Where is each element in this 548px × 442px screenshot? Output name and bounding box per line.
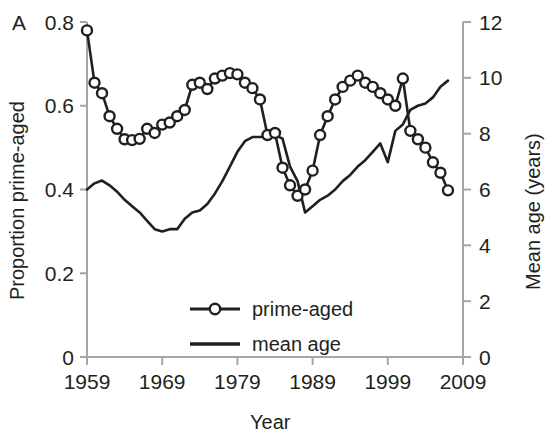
prime-aged-data-point (278, 163, 288, 173)
y-tick-label-right: 2 (479, 290, 491, 313)
y-tick-label-right: 4 (479, 234, 491, 257)
prime-aged-data-point (202, 84, 212, 94)
chart-figure: A 00.20.40.60.8 024681012 19591969197919… (0, 0, 548, 442)
prime-aged-data-point (232, 69, 242, 79)
y-tick-label-left: 0.2 (45, 262, 74, 285)
prime-aged-data-point (90, 78, 100, 88)
y-tick-label-left: 0 (62, 346, 74, 369)
x-tick-label: 1979 (214, 370, 261, 393)
y-tick-label-right: 6 (479, 178, 491, 201)
prime-aged-data-point (330, 94, 340, 104)
prime-aged-data-point (255, 94, 265, 104)
prime-aged-data-point (428, 157, 438, 167)
prime-aged-data-point (443, 185, 453, 195)
legend-swatch-prime-aged-marker (210, 304, 220, 314)
y-axis-right-title: Mean age (years) (522, 133, 544, 290)
prime-aged-data-point (97, 88, 107, 98)
y-axis-left-title: Proportion prime-aged (6, 101, 28, 300)
x-tick-label: 1999 (364, 370, 411, 393)
prime-aged-data-point (435, 168, 445, 178)
x-tick-label: 2009 (440, 370, 487, 393)
x-tick-label: 1959 (64, 370, 111, 393)
y-tick-label-right: 8 (479, 122, 491, 145)
prime-aged-data-point (398, 74, 408, 84)
prime-aged-data-point (150, 128, 160, 138)
prime-aged-data-point (82, 25, 92, 35)
prime-aged-data-point (308, 166, 318, 176)
legend-label-prime-aged: prime-aged (252, 298, 353, 320)
y-tick-label-left: 0.4 (45, 178, 75, 201)
prime-aged-data-point (413, 134, 423, 144)
prime-aged-data-point (405, 126, 415, 136)
y-tick-label-left: 0.6 (45, 94, 74, 117)
prime-aged-data-point (420, 143, 430, 153)
prime-aged-data-point (105, 111, 115, 121)
y-tick-label-right: 0 (479, 346, 491, 369)
y-tick-label-left: 0.8 (45, 11, 74, 34)
prime-aged-data-point (323, 111, 333, 121)
prime-aged-data-point (270, 128, 280, 138)
y-tick-label-right: 12 (479, 11, 502, 34)
legend-label-mean-age: mean age (252, 333, 341, 355)
prime-aged-data-point (315, 130, 325, 140)
prime-aged-data-point (247, 83, 257, 93)
prime-aged-data-point (300, 185, 310, 195)
prime-aged-data-point (180, 105, 190, 115)
x-tick-label: 1969 (139, 370, 186, 393)
x-axis-title: Year (250, 411, 291, 433)
y-tick-label-right: 10 (479, 66, 502, 89)
panel-label: A (12, 11, 26, 34)
prime-aged-data-point (390, 101, 400, 111)
x-tick-label: 1989 (289, 370, 336, 393)
prime-aged-data-point (112, 124, 122, 134)
prime-aged-data-point (285, 180, 295, 190)
prime-aged-data-point (135, 134, 145, 144)
